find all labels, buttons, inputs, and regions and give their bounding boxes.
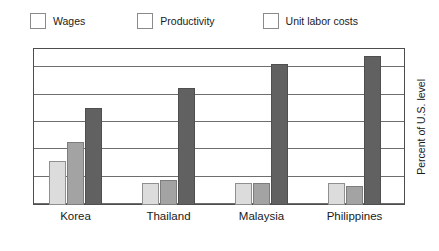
plot-area <box>33 48 405 205</box>
legend-swatch-unit-labor-costs <box>263 13 279 29</box>
gridline <box>34 94 404 95</box>
gridline <box>34 203 404 204</box>
y-axis-title: Percent of U.S. level <box>411 48 431 205</box>
legend-label-unit-labor-costs: Unit labor costs <box>286 16 358 27</box>
legend-item-wages: Wages <box>30 13 85 29</box>
gridline <box>34 121 404 122</box>
y-axis: 020406080100 <box>0 0 33 251</box>
x-axis-label-thailand: Thailand <box>146 210 190 223</box>
bar-chart: Wages Productivity Unit labor costs 0204… <box>0 0 439 251</box>
gridline <box>34 66 404 67</box>
legend-item-unit-labor-costs: Unit labor costs <box>263 13 358 29</box>
x-axis: KoreaThailandMalaysiaPhilippines <box>33 210 405 230</box>
chart-legend: Wages Productivity Unit labor costs <box>30 13 358 29</box>
x-axis-label-malaysia: Malaysia <box>239 210 284 223</box>
x-axis-label-korea: Korea <box>60 210 91 223</box>
gridline <box>34 176 404 177</box>
x-axis-label-philippines: Philippines <box>327 210 383 223</box>
gridlines <box>34 49 404 204</box>
gridline <box>34 148 404 149</box>
legend-label-wages: Wages <box>53 16 85 27</box>
y-axis-title-label: Percent of U.S. level <box>416 79 427 175</box>
legend-swatch-productivity <box>137 13 153 29</box>
legend-label-productivity: Productivity <box>160 16 214 27</box>
legend-item-productivity: Productivity <box>137 13 214 29</box>
